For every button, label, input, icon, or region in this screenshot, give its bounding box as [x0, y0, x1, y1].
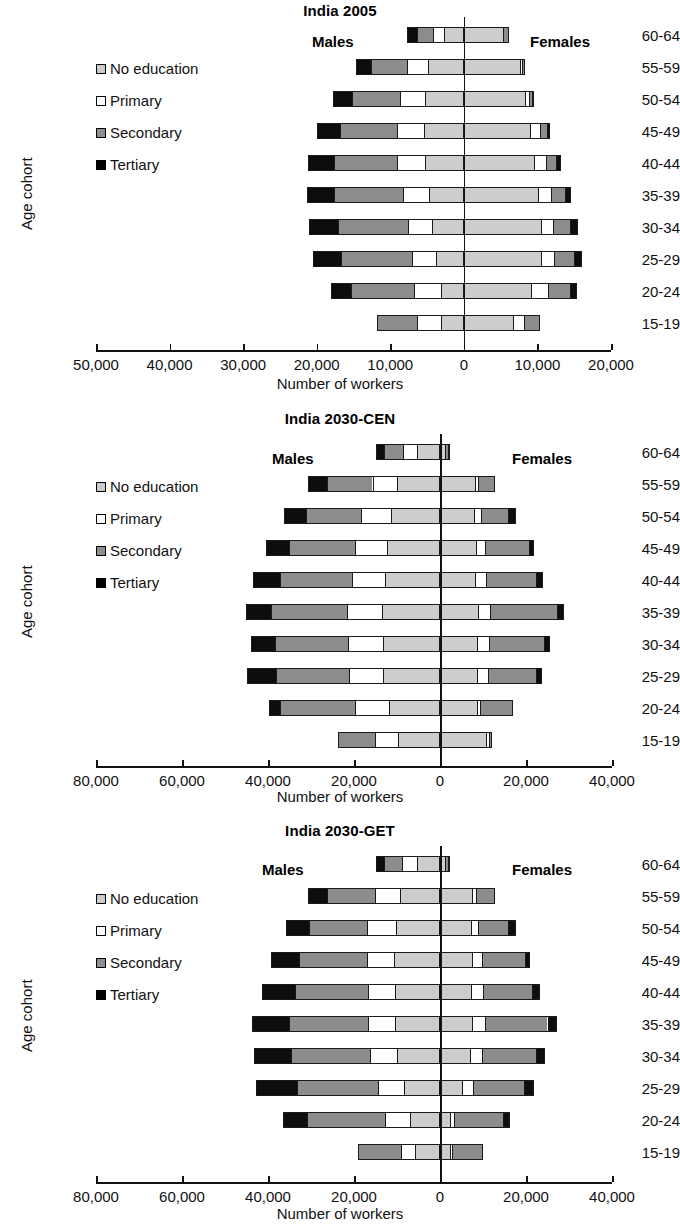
- x-axis-tick-label: 50,000: [73, 356, 119, 373]
- bar-female: [464, 155, 561, 171]
- x-axis-tick-label: 20,000: [331, 772, 377, 789]
- bar-segment-tertiary: [254, 573, 280, 587]
- cohort-label: 15-19: [588, 1145, 680, 1160]
- bar-segment-no_education: [444, 28, 463, 42]
- bar-segment-primary: [400, 92, 425, 106]
- bar-segment-primary: [375, 733, 398, 747]
- x-axis-tick-label: 60,000: [159, 772, 205, 789]
- bar-segment-tertiary: [529, 541, 533, 555]
- chart-panel-india-2030-cen: India 2030-CEN Age cohort Males Females …: [0, 408, 680, 808]
- cohort-label: 35-39: [588, 1017, 680, 1032]
- legend-item-no_education: No education: [96, 479, 198, 494]
- bar-segment-secondary: [478, 921, 508, 935]
- bar-female: [440, 952, 530, 968]
- bar-female: [440, 1048, 545, 1064]
- zero-axis-line: [440, 846, 442, 1182]
- bar-male: [266, 540, 440, 556]
- bar-segment-primary: [538, 188, 550, 202]
- bar-segment-primary: [401, 1145, 415, 1159]
- bar-segment-primary: [403, 445, 417, 459]
- bar-segment-primary: [375, 889, 400, 903]
- legend-item-tertiary: Tertiary: [96, 575, 159, 590]
- cohort-label: 60-64: [588, 445, 680, 460]
- bar-segment-tertiary: [557, 605, 563, 619]
- legend-item-no_education: No education: [96, 61, 198, 76]
- bar-segment-no_education: [395, 985, 439, 999]
- x-axis-title: Number of workers: [0, 1205, 680, 1222]
- bar-segment-no_education: [425, 156, 463, 170]
- bar-segment-primary: [407, 60, 428, 74]
- bar-male: [308, 155, 464, 171]
- x-axis-tick: [243, 344, 245, 350]
- legend-item-tertiary: Tertiary: [96, 987, 159, 1002]
- bar-segment-secondary: [522, 60, 523, 74]
- bar-male: [269, 700, 440, 716]
- bar-male: [307, 187, 464, 203]
- bar-segment-secondary: [481, 509, 508, 523]
- x-axis-tick: [268, 760, 270, 766]
- bar-segment-no_education: [410, 1113, 439, 1127]
- bar-segment-secondary: [384, 445, 403, 459]
- bar-segment-primary: [513, 316, 524, 330]
- legend-swatch-secondary-icon: [96, 546, 106, 556]
- cohort-label: 40-44: [588, 156, 680, 171]
- bar-segment-primary: [474, 509, 482, 523]
- bar-segment-secondary: [452, 1145, 482, 1159]
- legend-label: No education: [110, 891, 198, 906]
- bar-male: [356, 59, 464, 75]
- bar-segment-no_education: [389, 701, 439, 715]
- x-axis-tick: [182, 1176, 184, 1182]
- bar-segment-tertiary: [263, 985, 295, 999]
- bar-segment-tertiary: [556, 156, 560, 170]
- legend-swatch-secondary-icon: [96, 958, 106, 968]
- bar-segment-secondary: [417, 28, 433, 42]
- bar-segment-no_education: [404, 1081, 439, 1095]
- bar-female: [440, 856, 450, 872]
- bar-segment-tertiary: [318, 124, 340, 138]
- cohort-label: 45-49: [588, 124, 680, 139]
- bar-female: [440, 636, 550, 652]
- x-axis-tick-label: 0: [436, 772, 444, 789]
- bar-segment-tertiary: [247, 605, 272, 619]
- bar-segment-no_education: [428, 60, 463, 74]
- bar-segment-no_education: [465, 284, 531, 298]
- cohort-label: 15-19: [588, 733, 680, 748]
- bar-segment-tertiary: [548, 1017, 557, 1031]
- bar-segment-secondary: [540, 124, 547, 138]
- cohort-label: 50-54: [588, 92, 680, 107]
- legend-swatch-primary-icon: [96, 926, 106, 936]
- bar-segment-primary: [373, 477, 398, 491]
- cohort-label: 25-29: [588, 669, 680, 684]
- y-axis-title: Age cohort: [18, 157, 35, 230]
- bar-segment-tertiary: [314, 252, 341, 266]
- bar-segment-no_education: [441, 573, 475, 587]
- bar-male: [309, 219, 464, 235]
- bar-segment-primary: [347, 605, 383, 619]
- bar-segment-primary: [478, 605, 490, 619]
- bar-segment-secondary: [339, 733, 375, 747]
- cohort-label: 20-24: [588, 284, 680, 299]
- x-axis-tick-label: 10,000: [367, 356, 413, 373]
- bar-segment-no_education: [441, 605, 478, 619]
- legend-label: Tertiary: [110, 157, 159, 172]
- bar-segment-primary: [368, 985, 394, 999]
- cohort-label: 35-39: [588, 605, 680, 620]
- legend-swatch-tertiary-icon: [96, 990, 106, 1000]
- bar-segment-no_education: [383, 637, 439, 651]
- x-axis-tick: [537, 344, 539, 350]
- legend-label: Tertiary: [110, 987, 159, 1002]
- bar-segment-primary: [472, 953, 482, 967]
- bar-segment-tertiary: [357, 60, 371, 74]
- x-axis-tick-label: 20,000: [503, 1188, 549, 1205]
- x-axis-tick-label: 0: [460, 356, 468, 373]
- bar-segment-secondary: [295, 985, 368, 999]
- x-axis-tick: [612, 1176, 614, 1182]
- bar-segment-tertiary: [525, 953, 530, 967]
- bar-male: [308, 888, 440, 904]
- bar-female: [440, 1080, 534, 1096]
- bar-segment-primary: [462, 1081, 473, 1095]
- bar-segment-no_education: [395, 1017, 439, 1031]
- bar-segment-no_education: [465, 28, 503, 42]
- bar-female: [440, 984, 540, 1000]
- legend-label: No education: [110, 479, 198, 494]
